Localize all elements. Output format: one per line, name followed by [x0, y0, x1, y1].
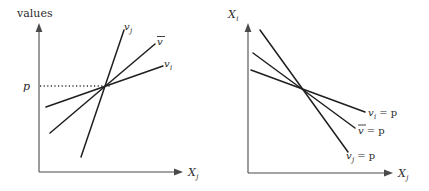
left-curve-vi — [46, 66, 163, 107]
right-curve-vbar — [253, 53, 355, 128]
right-y-axis-arrow-icon — [245, 23, 252, 32]
left-curve-vj — [81, 30, 124, 157]
right-y-axis-label: Xi — [227, 8, 239, 23]
left-curve-vbar — [50, 44, 155, 133]
figure-container: values Xj p vj v vi Xi — [0, 0, 429, 191]
left-plot: values Xj p vj v vi — [16, 7, 199, 181]
left-curve-label-vbar-base: v — [157, 36, 163, 47]
two-panel-line-figure: values Xj p vj v vi Xi — [0, 0, 429, 191]
right-curve-vi — [251, 70, 365, 112]
left-y-axis-label: values — [16, 7, 53, 20]
right-y-axis-label-sub: i — [236, 15, 238, 23]
right-curve-label-vj: vj= p — [346, 150, 375, 164]
left-curve-label-vi: vi — [164, 58, 172, 72]
right-curve-label-vi-suffix: = p — [379, 107, 397, 118]
left-x-axis-arrow-icon — [174, 169, 183, 176]
left-price-label: p — [23, 80, 30, 93]
right-curve-label-vbar: v= p — [358, 125, 385, 136]
left-curve-label-vi-sub: i — [170, 64, 172, 72]
left-curve-label-vj: vj — [124, 21, 133, 35]
right-curve-label-vbar-base: v — [358, 125, 364, 136]
left-y-axis-arrow-icon — [36, 23, 43, 32]
right-x-axis-label: Xj — [397, 167, 409, 182]
right-curve-label-vbar-text: v= p — [358, 125, 385, 136]
right-plot: Xi Xj vi= p v= p vj= p — [227, 8, 409, 182]
right-curve-label-vj-suffix: = p — [357, 150, 375, 161]
right-curve-label-vi: vi= p — [368, 107, 397, 121]
left-curve-label-vbar: v — [157, 36, 165, 47]
right-curve-label-vbar-suffix: = p — [367, 125, 385, 136]
right-x-axis-arrow-icon — [384, 170, 393, 177]
right-curve-label-vi-sub: i — [374, 113, 376, 121]
left-x-axis-label: Xj — [187, 166, 199, 181]
